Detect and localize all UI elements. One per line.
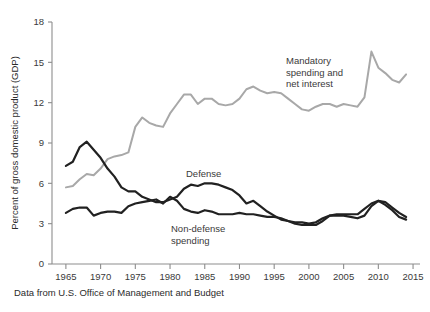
caption-label: Data from U.S. Office of Management and … xyxy=(14,287,224,298)
x-tick-label: 1990 xyxy=(229,271,250,282)
mandatory-series-label: spending and xyxy=(286,67,343,78)
mandatory-series-label: net interest xyxy=(286,78,333,89)
defense-series-label: Defense xyxy=(186,168,221,179)
x-tick-label: 1995 xyxy=(264,271,285,282)
y-tick-label: 15 xyxy=(33,57,44,68)
x-tick-label: 2000 xyxy=(298,271,319,282)
y-axis-title: Percent of gross domestic product (GDP) xyxy=(9,56,20,230)
y-tick-label: 3 xyxy=(39,218,44,229)
y-tick-label: 9 xyxy=(39,137,44,148)
series-annotations: Mandatoryspending andnet interestDefense… xyxy=(171,55,343,246)
nondefense-series-label: spending xyxy=(171,235,210,246)
y-tick-label: 6 xyxy=(39,178,44,189)
y-axis: 0369121518 xyxy=(33,16,52,269)
chart-figure: 0369121518 19651970197519801985199019952… xyxy=(0,0,430,312)
x-tick-label: 1975 xyxy=(125,271,146,282)
x-tick-label: 1985 xyxy=(194,271,215,282)
series-line-0 xyxy=(66,52,406,188)
x-tick-label: 1980 xyxy=(159,271,180,282)
chart-caption: Data from U.S. Office of Management and … xyxy=(14,287,224,298)
x-tick-label: 2015 xyxy=(402,271,423,282)
x-tick-label: 1970 xyxy=(90,271,111,282)
nondefense-series-label: Non-defense xyxy=(171,223,225,234)
y-axis-title-text: Percent of gross domestic product (GDP) xyxy=(9,56,20,230)
mandatory-series-label: Mandatory xyxy=(286,55,331,66)
series-line-2 xyxy=(66,197,406,224)
y-tick-label: 0 xyxy=(39,258,44,269)
line-chart: 0369121518 19651970197519801985199019952… xyxy=(0,0,430,312)
x-tick-label: 2010 xyxy=(368,271,389,282)
y-tick-label: 12 xyxy=(33,97,44,108)
x-tick-label: 2005 xyxy=(333,271,354,282)
x-tick-label: 1965 xyxy=(55,271,76,282)
y-tick-label: 18 xyxy=(33,16,44,27)
x-axis: 1965197019751980198519901995200020052010… xyxy=(52,264,424,282)
series-lines xyxy=(66,52,406,225)
